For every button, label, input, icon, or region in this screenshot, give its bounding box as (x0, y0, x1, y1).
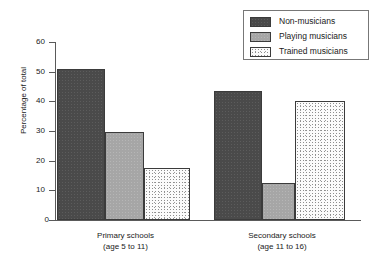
y-tick-label-30: 30 (5, 127, 45, 135)
group-label-primary-name: Primary schools (58, 230, 193, 241)
bar-primary-non-musicians (57, 69, 105, 220)
bar-chart-figure: Percentage of total 0 10 20 30 40 50 60 … (0, 0, 383, 273)
legend-item-playing-musicians: Playing musicians (244, 29, 368, 44)
x-axis-line (55, 220, 361, 221)
bar-primary-trained-musicians (144, 168, 190, 220)
legend-item-trained-musicians: Trained musicians (244, 44, 368, 59)
group-label-secondary-sublabel: (age 11 to 16) (212, 241, 352, 252)
chart-legend: Non-musicians Playing musicians Trained … (243, 10, 369, 60)
group-label-secondary: Secondary schools (age 11 to 16) (212, 230, 352, 252)
plot-area (55, 42, 360, 220)
legend-label-playing-musicians: Playing musicians (279, 32, 347, 41)
group-label-primary: Primary schools (age 5 to 11) (58, 230, 193, 252)
bar-secondary-playing-musicians (262, 183, 295, 220)
legend-swatch-playing-musicians-icon (250, 32, 271, 42)
y-tick-label-50: 50 (5, 68, 45, 76)
legend-item-non-musicians: Non-musicians (244, 14, 368, 29)
bar-secondary-trained-musicians (295, 101, 345, 220)
y-tick-label-40: 40 (5, 97, 45, 105)
legend-swatch-trained-musicians-icon (250, 47, 271, 57)
y-tick-label-20: 20 (5, 157, 45, 165)
group-label-primary-sublabel: (age 5 to 11) (58, 241, 193, 252)
legend-swatch-non-musicians-icon (250, 17, 271, 27)
y-tick-label-0: 0 (9, 216, 49, 224)
y-tick-label-60: 60 (5, 38, 45, 46)
legend-label-non-musicians: Non-musicians (279, 17, 335, 26)
y-tick-0 (49, 220, 55, 221)
bar-primary-playing-musicians (105, 132, 144, 220)
bar-secondary-non-musicians (214, 91, 262, 220)
group-label-secondary-name: Secondary schools (212, 230, 352, 241)
y-tick-label-10: 10 (5, 186, 45, 194)
legend-label-trained-musicians: Trained musicians (279, 47, 348, 56)
